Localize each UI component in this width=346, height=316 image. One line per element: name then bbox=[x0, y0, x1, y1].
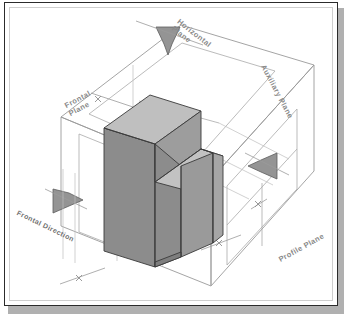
projection-diagram-svg bbox=[5, 3, 339, 307]
solid-face-slab-front bbox=[181, 153, 213, 257]
screenshot-root: Horizontal Plane Auxiliary Plane Frontal… bbox=[0, 0, 346, 316]
solid-face-front-left bbox=[104, 128, 155, 267]
solid-face-front-right bbox=[155, 144, 181, 267]
profile-plane-face bbox=[211, 65, 314, 286]
frontal-guide-lines bbox=[63, 169, 75, 263]
frontal-view-arrow bbox=[45, 189, 87, 213]
figure-plate: Horizontal Plane Auxiliary Plane Frontal… bbox=[4, 2, 338, 306]
profile-view-arrow bbox=[245, 153, 289, 179]
horizontal-view-arrow bbox=[136, 21, 203, 55]
solid-object bbox=[104, 95, 223, 267]
